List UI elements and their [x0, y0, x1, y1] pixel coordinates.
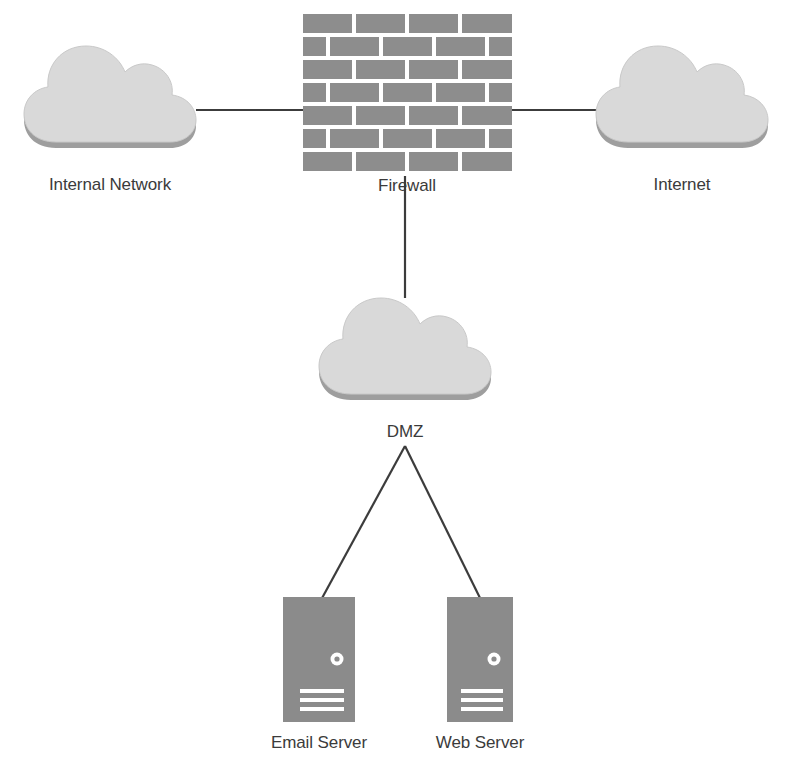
brick-wall-icon — [303, 14, 512, 171]
node-label-web-server: Web Server — [436, 733, 525, 752]
vent-line — [461, 707, 503, 711]
node-email-server[interactable]: Email Server — [271, 597, 368, 752]
vent-line — [300, 698, 344, 702]
node-label-internet: Internet — [654, 175, 711, 194]
server-icon — [283, 597, 355, 722]
node-firewall[interactable]: Firewall — [303, 14, 512, 195]
node-dmz[interactable]: DMZ — [319, 298, 491, 441]
node-web-server[interactable]: Web Server — [436, 597, 525, 752]
node-label-email-server: Email Server — [271, 733, 368, 752]
link-dmz-to-email-server — [321, 446, 405, 600]
vent-line — [300, 707, 344, 711]
cloud-icon — [596, 46, 768, 148]
cloud-icon — [24, 46, 196, 148]
node-internal-network[interactable]: Internal Network — [24, 46, 196, 194]
node-label-internal-network: Internal Network — [49, 175, 172, 194]
vent-line — [300, 689, 344, 693]
diagram-svg: Internal Network — [0, 0, 792, 766]
node-label-firewall: Firewall — [378, 176, 436, 195]
cloud-icon — [319, 298, 491, 400]
vent-line — [461, 698, 503, 702]
network-diagram-canvas: Internal Network — [0, 0, 792, 766]
server-icon — [447, 597, 513, 722]
link-dmz-to-web-server — [405, 446, 481, 600]
node-label-dmz: DMZ — [387, 422, 424, 441]
node-internet[interactable]: Internet — [596, 46, 768, 194]
vent-line — [461, 689, 503, 693]
